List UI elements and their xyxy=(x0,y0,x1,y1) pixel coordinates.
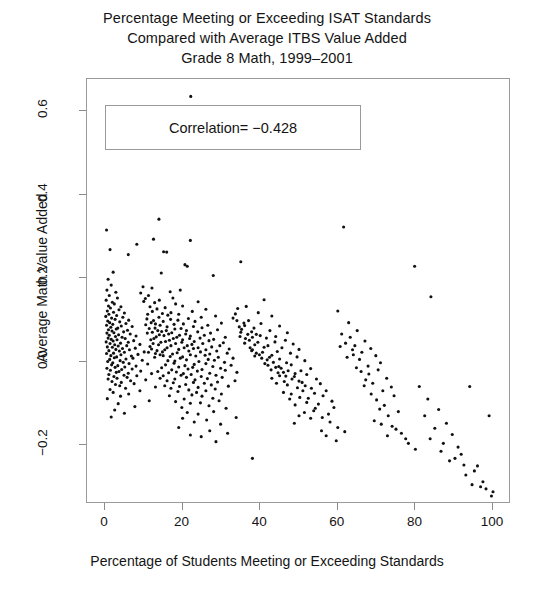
scatter-point xyxy=(197,413,200,416)
scatter-point xyxy=(322,394,325,397)
scatter-point xyxy=(186,265,189,268)
scatter-point xyxy=(119,305,122,308)
scatter-point xyxy=(383,404,386,407)
scatter-point xyxy=(164,306,167,309)
scatter-point xyxy=(119,395,122,398)
scatter-point xyxy=(154,327,157,330)
scatter-point xyxy=(208,372,211,375)
scatter-point xyxy=(226,352,229,355)
x-axis-tick-mark xyxy=(104,503,105,510)
scatter-point xyxy=(191,310,194,313)
scatter-point xyxy=(128,362,131,365)
scatter-point xyxy=(473,469,476,472)
scatter-point xyxy=(208,352,211,355)
scatter-point xyxy=(134,365,137,368)
scatter-point xyxy=(204,354,207,357)
scatter-point xyxy=(107,337,110,340)
scatter-point xyxy=(113,343,116,346)
scatter-point xyxy=(371,382,374,385)
scatter-point xyxy=(210,345,213,348)
scatter-point xyxy=(239,260,242,263)
scatter-point xyxy=(367,372,370,375)
scatter-point xyxy=(253,355,256,358)
scatter-point xyxy=(190,393,193,396)
y-axis-tick-mark xyxy=(79,361,86,362)
scatter-point xyxy=(391,425,394,428)
scatter-point xyxy=(290,393,293,396)
scatter-point xyxy=(189,239,192,242)
scatter-point xyxy=(158,333,161,336)
scatter-point xyxy=(364,378,367,381)
scatter-point xyxy=(278,324,281,327)
scatter-point xyxy=(121,336,124,339)
scatter-point xyxy=(110,380,113,383)
scatter-point xyxy=(173,327,176,330)
scatter-point xyxy=(136,353,139,356)
scatter-point xyxy=(105,332,108,335)
x-axis-tick-label: 100 xyxy=(462,514,522,529)
scatter-point xyxy=(110,415,113,418)
scatter-point xyxy=(126,376,129,379)
scatter-point xyxy=(110,363,113,366)
scatter-point xyxy=(158,299,161,302)
scatter-point xyxy=(176,319,179,322)
scatter-point xyxy=(390,385,393,388)
scatter-point xyxy=(197,346,200,349)
scatter-point xyxy=(195,391,198,394)
scatter-point xyxy=(211,365,214,368)
scatter-point xyxy=(305,373,308,376)
scatter-point xyxy=(307,397,310,400)
scatter-point xyxy=(169,344,172,347)
scatter-point xyxy=(208,429,211,432)
scatter-point xyxy=(201,342,204,345)
scatter-point xyxy=(263,346,266,349)
scatter-point xyxy=(243,342,246,345)
scatter-point xyxy=(186,344,189,347)
scatter-point xyxy=(108,321,111,324)
scatter-point xyxy=(193,340,196,343)
scatter-point xyxy=(184,332,187,335)
scatter-point xyxy=(210,383,213,386)
scatter-point xyxy=(174,302,177,305)
scatter-point xyxy=(327,413,330,416)
scatter-point xyxy=(157,218,160,221)
scatter-point xyxy=(117,308,120,311)
scatter-point xyxy=(185,376,188,379)
scatter-point xyxy=(284,375,287,378)
scatter-point xyxy=(360,351,363,354)
scatter-point xyxy=(107,349,110,352)
scatter-point xyxy=(106,309,109,312)
scatter-point xyxy=(377,368,380,371)
scatter-point xyxy=(117,402,120,405)
scatter-point xyxy=(112,375,115,378)
scatter-point xyxy=(144,297,147,300)
scatter-point xyxy=(127,393,130,396)
scatter-point xyxy=(199,350,202,353)
scatter-point xyxy=(182,322,185,325)
scatter-point xyxy=(309,417,312,420)
scatter-point xyxy=(172,381,175,384)
scatter-point xyxy=(193,320,196,323)
scatter-point xyxy=(287,369,290,372)
scatter-point xyxy=(121,347,124,350)
scatter-point xyxy=(154,352,157,355)
scatter-point xyxy=(375,398,378,401)
scatter-point xyxy=(180,341,183,344)
scatter-point xyxy=(255,333,258,336)
scatter-point xyxy=(134,334,137,337)
scatter-point xyxy=(234,312,237,315)
scatter-point xyxy=(235,371,238,374)
scatter-point xyxy=(330,400,333,403)
scatter-point xyxy=(144,378,147,381)
scatter-point xyxy=(275,382,278,385)
scatter-point xyxy=(152,342,155,345)
scatter-point xyxy=(211,397,214,400)
scatter-point xyxy=(115,327,118,330)
scatter-point xyxy=(112,352,115,355)
scatter-point xyxy=(139,291,142,294)
scatter-point xyxy=(451,433,454,436)
scatter-point xyxy=(488,414,491,417)
scatter-point xyxy=(260,357,263,360)
scatter-point xyxy=(356,329,359,332)
scatter-point xyxy=(206,324,209,327)
